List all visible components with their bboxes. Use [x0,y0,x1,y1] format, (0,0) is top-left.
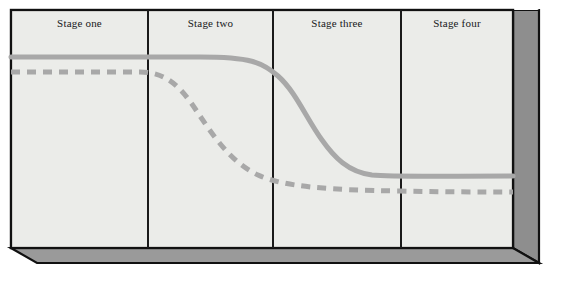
panel-texture-overlay [12,11,512,247]
stage-label-one: Stage one [11,17,148,29]
bottom-face-3d [11,248,539,263]
stage-label-three: Stage three [273,17,401,29]
side-face-3d [513,10,539,263]
stage-label-four: Stage four [401,17,513,29]
stage-label-two: Stage two [148,17,273,29]
stage-diagram: Stage one Stage two Stage three Stage fo… [0,0,566,287]
diagram-canvas [0,0,566,287]
